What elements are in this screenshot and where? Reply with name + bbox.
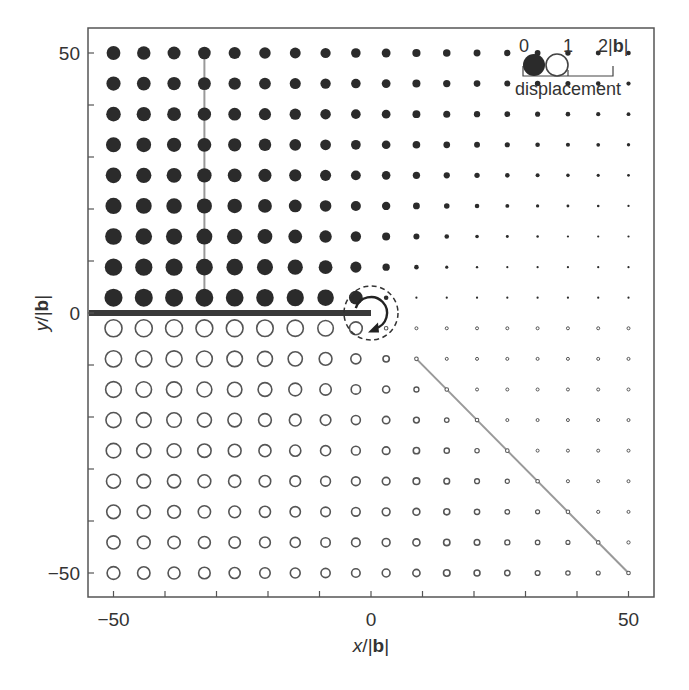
filled-point bbox=[474, 80, 481, 87]
open-point bbox=[106, 443, 121, 458]
open-point bbox=[228, 444, 241, 457]
filled-point bbox=[474, 173, 479, 178]
open-point bbox=[536, 419, 539, 422]
filled-point bbox=[412, 110, 420, 118]
open-point bbox=[288, 352, 302, 366]
filled-point bbox=[290, 108, 301, 119]
filled-point bbox=[597, 266, 599, 268]
filled-point bbox=[135, 259, 152, 276]
open-point bbox=[505, 479, 509, 483]
filled-point bbox=[105, 228, 122, 245]
filled-point bbox=[536, 204, 539, 207]
open-point bbox=[107, 536, 120, 549]
open-point bbox=[138, 567, 150, 579]
open-point bbox=[596, 541, 600, 545]
open-point bbox=[596, 571, 600, 575]
filled-point bbox=[506, 266, 508, 268]
filled-point bbox=[167, 138, 181, 152]
open-point bbox=[290, 568, 300, 578]
filled-point bbox=[505, 204, 509, 208]
open-point bbox=[415, 357, 419, 361]
open-point bbox=[384, 326, 388, 330]
filled-point bbox=[136, 137, 151, 152]
open-point bbox=[321, 568, 330, 577]
y-tick-label: 0 bbox=[69, 303, 80, 324]
open-point bbox=[566, 571, 570, 575]
filled-point bbox=[382, 232, 390, 240]
filled-point bbox=[413, 141, 421, 149]
open-point bbox=[627, 357, 630, 360]
filled-point bbox=[475, 235, 479, 239]
filled-point bbox=[536, 235, 539, 238]
open-point bbox=[413, 478, 420, 485]
open-point bbox=[260, 568, 270, 578]
open-point bbox=[320, 384, 331, 395]
filled-point bbox=[384, 295, 389, 300]
filled-point bbox=[382, 110, 391, 119]
filled-point bbox=[445, 266, 448, 269]
open-point bbox=[351, 416, 360, 425]
filled-point bbox=[288, 260, 303, 275]
filled-point bbox=[506, 235, 509, 238]
filled-point bbox=[597, 235, 599, 237]
open-point bbox=[597, 510, 600, 513]
open-point bbox=[197, 382, 212, 397]
filled-point bbox=[198, 107, 211, 120]
filled-point bbox=[504, 50, 510, 56]
filled-point bbox=[227, 199, 242, 214]
open-point bbox=[349, 322, 362, 335]
filled-point bbox=[412, 49, 420, 57]
open-point bbox=[166, 382, 181, 397]
open-point bbox=[166, 320, 183, 337]
filled-point bbox=[198, 47, 211, 60]
open-point bbox=[289, 414, 301, 426]
open-point bbox=[414, 387, 419, 392]
open-point bbox=[258, 383, 272, 397]
x-tick-label: −50 bbox=[97, 609, 129, 630]
open-point bbox=[475, 418, 479, 422]
open-point bbox=[445, 357, 448, 360]
filled-point bbox=[382, 49, 391, 58]
open-point bbox=[351, 354, 361, 364]
filled-point bbox=[320, 200, 332, 212]
open-point bbox=[198, 444, 211, 457]
open-point bbox=[627, 327, 630, 330]
open-point bbox=[382, 539, 390, 547]
open-point bbox=[444, 539, 450, 545]
open-point bbox=[137, 505, 150, 518]
filled-point bbox=[567, 235, 569, 237]
filled-point bbox=[413, 233, 419, 239]
open-point bbox=[167, 413, 182, 428]
open-point bbox=[536, 449, 539, 452]
open-point bbox=[105, 320, 122, 337]
filled-point bbox=[196, 229, 212, 245]
open-point bbox=[107, 505, 121, 519]
open-point bbox=[318, 321, 334, 337]
filled-point bbox=[320, 78, 330, 88]
open-point bbox=[351, 477, 360, 486]
open-point bbox=[168, 536, 180, 548]
filled-point bbox=[506, 297, 508, 299]
open-point bbox=[413, 569, 420, 576]
open-point bbox=[413, 447, 419, 453]
open-point bbox=[290, 476, 301, 487]
filled-point bbox=[627, 112, 631, 116]
filled-point bbox=[259, 78, 271, 90]
open-point bbox=[229, 537, 240, 548]
open-point bbox=[382, 569, 390, 577]
open-point bbox=[197, 413, 211, 427]
filled-point bbox=[136, 228, 153, 245]
filled-point bbox=[382, 140, 391, 149]
filled-point bbox=[166, 259, 183, 276]
open-point bbox=[320, 415, 331, 426]
open-point bbox=[105, 351, 121, 367]
filled-point bbox=[596, 112, 600, 116]
open-point bbox=[597, 419, 600, 422]
open-point bbox=[321, 446, 331, 456]
filled-point bbox=[289, 200, 302, 213]
filled-point bbox=[228, 77, 240, 89]
open-point bbox=[259, 414, 272, 427]
open-point bbox=[106, 413, 121, 428]
open-point bbox=[198, 536, 210, 548]
open-point bbox=[627, 571, 631, 575]
